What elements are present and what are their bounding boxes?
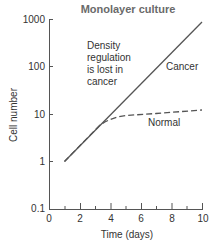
svg-text:is lost in: is lost in (87, 64, 123, 75)
normal-label: Normal (148, 117, 180, 128)
x-tick-label: 10 (197, 213, 209, 224)
svg-text:regulation: regulation (87, 52, 131, 63)
y-tick-label: 1000 (23, 14, 46, 25)
svg-text:Density: Density (87, 40, 120, 51)
x-tick-label: 0 (46, 213, 52, 224)
y-tick-label: 10 (34, 109, 46, 120)
y-axis (50, 19, 54, 210)
x-axis (49, 203, 203, 210)
chart-title: Monolayer culture (81, 3, 176, 15)
annotation-density-regulation: Density regulation is lost in cancer (87, 40, 131, 87)
x-tick-label: 8 (169, 213, 175, 224)
y-tick-label: 100 (28, 61, 45, 72)
cancer-label: Cancer (166, 61, 199, 72)
x-tick-label: 4 (108, 213, 114, 224)
y-axis-label: Cell number (8, 87, 19, 142)
normal-line (65, 110, 203, 162)
y-tick-label: 0.1 (31, 203, 45, 214)
x-axis-label: Time (days) (101, 229, 153, 240)
y-tick-label: 1 (39, 156, 45, 167)
chart: Monolayer culture 1000 100 10 1 0.1 0 2 … (0, 0, 222, 247)
svg-text:cancer: cancer (87, 76, 118, 87)
x-tick-label: 6 (138, 213, 144, 224)
x-tick-label: 2 (77, 213, 83, 224)
